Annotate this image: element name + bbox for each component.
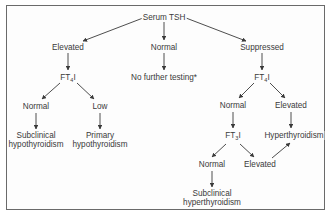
node-subclinical-hyperthyroidism: Subclinical hyperthyroidism [182, 189, 242, 207]
ft-suffix: I [73, 73, 75, 82]
node-label: Elevated [244, 160, 276, 169]
node-label: Suppressed [240, 43, 284, 52]
ft-prefix: FT [225, 131, 235, 140]
node-ft3i: FT3I [224, 131, 241, 140]
node-ft4i-low: Low [91, 102, 108, 111]
node-label-line1: Subclinical [183, 189, 241, 198]
node-ft4i-right: FT4I [253, 73, 270, 82]
node-ft4i-normal-right: Normal [219, 101, 247, 110]
ft-prefix: FT [254, 73, 264, 82]
node-label: Normal [220, 101, 246, 110]
node-label: Hyperthyroidism [264, 131, 323, 140]
node-ft3i-elevated: Elevated [243, 160, 277, 169]
node-normal-tsh: Normal [150, 43, 178, 52]
node-label: Normal [151, 43, 177, 52]
node-ft4i-normal-left: Normal [22, 102, 50, 111]
node-label-line1: Subclinical [8, 131, 63, 140]
node-label: Normal [199, 160, 225, 169]
node-ft4i-left: FT4I [59, 73, 76, 82]
node-suppressed-tsh: Suppressed [239, 43, 285, 52]
node-label-line1: Primary [72, 131, 127, 140]
node-subclinical-hypothyroidism: Subclinical hypothyroidism [7, 131, 64, 149]
ft-suffix: I [238, 131, 240, 140]
node-ft4i-elevated-right: Elevated [274, 101, 308, 110]
node-label: Serum TSH [143, 13, 186, 22]
node-label: Normal [23, 102, 49, 111]
node-label: Elevated [52, 43, 84, 52]
node-label: No further testing* [131, 73, 197, 82]
node-elevated-tsh: Elevated [51, 43, 85, 52]
node-label: Low [92, 102, 107, 111]
node-ft3i-normal: Normal [198, 160, 226, 169]
ft-suffix: I [267, 73, 269, 82]
node-hyperthyroidism: Hyperthyroidism [263, 131, 324, 140]
node-label-line2: hypothyroidism [8, 140, 63, 149]
node-primary-hypothyroidism: Primary hypothyroidism [71, 131, 128, 149]
ft-prefix: FT [60, 73, 70, 82]
node-label: Elevated [275, 101, 307, 110]
node-no-further-testing: No further testing* [130, 73, 198, 82]
node-label-line2: hyperthyroidism [183, 198, 241, 207]
node-label-line2: hypothyroidism [72, 140, 127, 149]
node-serum-tsh: Serum TSH [142, 13, 187, 22]
